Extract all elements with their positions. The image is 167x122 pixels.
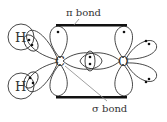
- pi-bond-label: π bond: [66, 7, 102, 18]
- electron: [89, 56, 92, 59]
- electron: [123, 31, 126, 34]
- atom-label-c: C: [55, 54, 65, 69]
- sigma-bond-pointer: [65, 66, 107, 101]
- c-sigma-lobe: [63, 53, 102, 70]
- atom-label-h-top: H: [15, 30, 26, 45]
- electron: [31, 44, 34, 47]
- electron: [29, 77, 32, 80]
- electron: [145, 81, 148, 84]
- electron: [32, 82, 35, 85]
- electron: [28, 39, 31, 42]
- electron: [145, 40, 148, 43]
- electron: [148, 78, 151, 81]
- electron: [89, 63, 92, 66]
- o-lone-pair-upper: [126, 40, 157, 59]
- pi-bond-bar-bottom: [56, 96, 127, 99]
- co-sigma-overlap: [85, 51, 95, 71]
- electron: [57, 31, 60, 34]
- pi-bond-bar-top: [56, 24, 127, 27]
- atom-label-h-bottom: H: [15, 79, 26, 94]
- formaldehyde-orbital-diagram: H H C O π bond σ bond: [0, 0, 167, 122]
- sigma-bond-label: σ bond: [92, 103, 128, 114]
- electron: [148, 43, 151, 46]
- o-lone-pair-lower: [126, 63, 157, 82]
- atom-label-o: O: [118, 54, 129, 69]
